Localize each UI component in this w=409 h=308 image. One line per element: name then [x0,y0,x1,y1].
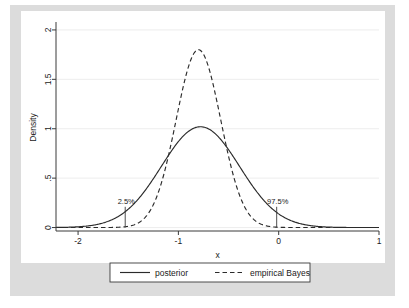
x-tick-label-3: 1 [377,236,382,246]
x-axis-title: x [215,250,220,260]
legend-label-empirical-bayes: empirical Bayes [250,268,310,278]
annotation-label-25: 2.5% [118,197,135,206]
percentile-markers [125,207,276,228]
x-tick-label-2: 0 [276,236,281,246]
tick-labels: 0.511.52-2-101 [43,27,382,246]
legend: posteriorempirical Bayes [110,263,310,282]
y-tick-label-0: 0 [43,225,53,230]
density-chart: 0.511.52-2-101 Densityx 2.5%97.5% poster… [0,0,409,308]
y-tick-label-1: .5 [43,174,53,181]
curve-empirical-bayes [56,50,379,228]
curve-posterior [56,127,379,228]
axis-titles: Densityx [28,113,220,260]
x-tick-label-0: -2 [74,236,82,246]
y-tick-label-4: 2 [43,27,53,32]
annotations: 2.5%97.5% [118,197,289,206]
y-tick-label-3: 1.5 [43,73,53,85]
gridlines [56,30,379,228]
y-tick-label-2: 1 [43,126,53,131]
legend-label-posterior: posterior [155,268,188,278]
x-tick-label-1: -1 [175,236,183,246]
annotation-label-975: 97.5% [267,197,289,206]
y-axis-title: Density [28,113,38,142]
series-curves [56,50,379,228]
figure-container: 0.511.52-2-101 Densityx 2.5%97.5% poster… [0,0,409,308]
